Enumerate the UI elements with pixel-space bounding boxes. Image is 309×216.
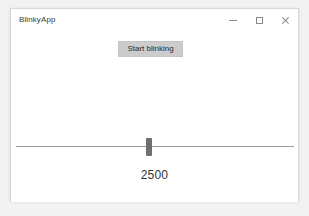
close-button[interactable] — [272, 9, 298, 32]
interval-slider[interactable] — [16, 136, 294, 158]
interval-value-label: 2500 — [11, 168, 298, 182]
minimize-icon — [229, 20, 237, 21]
start-blinking-button[interactable]: Start blinking — [118, 41, 183, 57]
maximize-icon — [256, 17, 263, 24]
client-area: Start blinking 2500 — [11, 32, 298, 202]
maximize-button[interactable] — [246, 9, 272, 32]
close-icon — [281, 16, 290, 25]
title-bar[interactable]: BlinkyApp — [11, 9, 298, 32]
slider-thumb[interactable] — [146, 138, 152, 156]
slider-track[interactable] — [16, 146, 294, 147]
window-title: BlinkyApp — [19, 15, 55, 24]
minimize-button[interactable] — [220, 9, 246, 32]
app-window: BlinkyApp Start blinking 2500 — [10, 8, 299, 201]
